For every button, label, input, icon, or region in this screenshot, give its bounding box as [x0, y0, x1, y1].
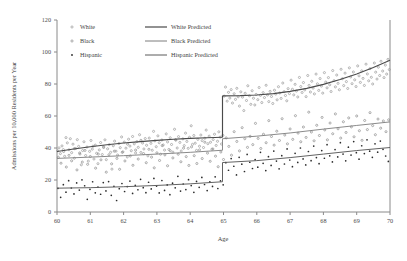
data-point: [238, 150, 240, 152]
data-point: [387, 161, 389, 163]
data-point: [345, 81, 347, 83]
series-white: [57, 58, 391, 170]
data-point: [348, 146, 350, 148]
data-point: [358, 75, 360, 77]
data-point: [90, 139, 92, 141]
data-point: [326, 144, 328, 146]
data-point: [196, 162, 198, 164]
data-point: [121, 136, 123, 138]
data-point: [276, 130, 278, 132]
data-point: [150, 142, 152, 144]
data-point: [240, 91, 242, 93]
data-point: [380, 127, 382, 129]
data-point: [73, 193, 75, 195]
data-point: [185, 156, 187, 158]
legend-item-black[interactable]: Black: [71, 37, 95, 44]
legend-item-white-predicted[interactable]: White Predicted: [145, 23, 212, 30]
data-point: [260, 147, 262, 149]
data-point: [300, 141, 302, 143]
data-point: [78, 145, 80, 147]
data-point: [372, 156, 374, 158]
data-point: [270, 95, 272, 97]
data-point: [286, 148, 288, 150]
data-point: [161, 180, 163, 182]
data-point: [340, 142, 342, 144]
data-point: [352, 71, 354, 73]
data-point: [201, 158, 203, 160]
legend-label: White Predicted: [171, 23, 212, 30]
data-point: [257, 166, 259, 168]
data-point: [321, 116, 323, 118]
data-point: [252, 168, 254, 170]
legend-item-black-predicted[interactable]: Black Predicted: [145, 37, 211, 44]
data-point: [64, 155, 66, 157]
data-point: [294, 152, 296, 154]
data-point: [222, 184, 224, 186]
legend-label: Black: [80, 37, 95, 44]
fit-hispanic-predicted: [57, 148, 390, 189]
data-point: [114, 140, 116, 142]
data-point: [297, 162, 299, 164]
data-point: [59, 153, 61, 155]
data-point: [93, 158, 95, 160]
data-point: [260, 151, 262, 153]
data-point: [385, 131, 387, 133]
legend-item-white[interactable]: White: [71, 23, 95, 30]
legend-item-hispanic[interactable]: Hispanic: [71, 51, 102, 58]
data-point: [60, 162, 62, 164]
legend-label: Hispanic: [80, 51, 102, 58]
data-point: [217, 166, 219, 168]
data-point: [257, 99, 259, 101]
data-point: [190, 185, 192, 187]
data-point: [357, 65, 359, 67]
data-point: [244, 138, 246, 140]
data-point: [185, 189, 187, 191]
data-point: [113, 150, 115, 152]
data-point: [354, 79, 356, 81]
data-point: [380, 60, 382, 62]
data-point: [382, 70, 384, 72]
data-point: [187, 147, 189, 149]
data-point: [327, 77, 329, 79]
data-point: [262, 133, 264, 135]
y-tick-label: 80: [45, 80, 51, 87]
data-point: [100, 193, 102, 195]
data-point: [297, 96, 299, 98]
data-point: [277, 86, 279, 88]
data-point: [345, 160, 347, 162]
data-point: [137, 146, 139, 148]
data-point: [302, 126, 304, 128]
data-point: [270, 165, 272, 167]
data-point: [377, 118, 379, 120]
data-point: [200, 134, 202, 136]
data-point: [340, 68, 342, 70]
data-point: [281, 155, 283, 157]
data-point: [230, 154, 232, 156]
data-point: [356, 152, 358, 154]
data-point: [250, 103, 252, 105]
data-point: [196, 181, 198, 183]
data-point: [69, 138, 71, 140]
data-point: [270, 135, 272, 137]
data-point: [146, 144, 148, 146]
data-point: [358, 130, 360, 132]
x-tick-label: 62: [121, 217, 127, 224]
data-point: [379, 140, 381, 142]
y-tick-label: 40: [45, 144, 51, 151]
fit-segment: [57, 137, 223, 151]
data-point: [214, 176, 216, 178]
data-point: [348, 117, 350, 119]
data-point: [172, 182, 174, 184]
data-point: [105, 190, 107, 192]
data-point: [364, 119, 366, 121]
data-point: [65, 191, 67, 193]
data-point: [148, 137, 150, 139]
data-point: [342, 121, 344, 123]
data-point: [388, 119, 390, 121]
data-point: [91, 148, 93, 150]
data-point: [373, 62, 375, 64]
legend-item-hispanic-predicted[interactable]: Hispanic Predicted: [145, 51, 219, 58]
data-point: [386, 73, 388, 75]
data-point: [155, 146, 157, 148]
plot-frame: [57, 20, 390, 212]
